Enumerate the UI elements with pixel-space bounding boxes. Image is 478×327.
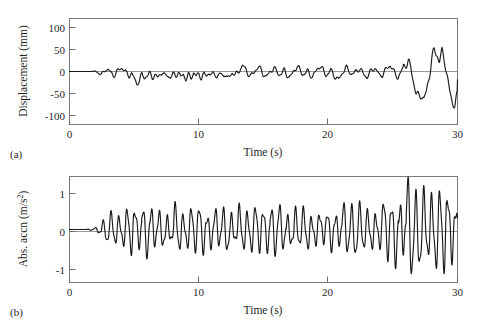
y-tick-label-a-4: -100 (45, 110, 66, 122)
y-axis-title-a: Displacement (mm) (17, 25, 30, 117)
panel-tag-a: (a) (10, 148, 23, 161)
y-axis-title-b: Abs. accn (m/s2) (16, 191, 30, 268)
x-tick-label-b-0: 0 (67, 286, 73, 298)
x-ticks-b (70, 277, 458, 283)
plot-frame-b (70, 177, 458, 283)
panel-b-acceleration: 1 0 -1 0 10 20 30 Time (s) Abs. accn (m/… (0, 163, 478, 327)
y-tick-label-a-0: 100 (49, 22, 66, 34)
x-axis-title-b: Time (s) (244, 304, 283, 317)
panel-tag-b: (b) (10, 306, 23, 319)
y-tick-label-b-2: -1 (56, 264, 65, 276)
x-tick-label-a-1: 10 (193, 128, 205, 140)
panel-a-displacement: 100 50 0 -50 -100 0 10 20 30 Time (s) Di… (0, 0, 478, 164)
y-tick-label-a-1: 50 (54, 44, 66, 56)
y-ticks-b (70, 194, 76, 270)
y-tick-label-a-3: -50 (50, 88, 65, 100)
acceleration-chart: 1 0 -1 0 10 20 30 Time (s) Abs. accn (m/… (0, 163, 478, 327)
x-tick-label-b-3: 30 (452, 286, 464, 298)
x-ticks-a (70, 119, 458, 125)
x-axis-title-a: Time (s) (244, 146, 283, 159)
x-tick-label-a-3: 30 (452, 128, 464, 140)
y-tick-label-b-0: 1 (60, 188, 66, 200)
x-tick-label-a-2: 20 (322, 128, 334, 140)
y-tick-label-b-1: 0 (60, 226, 66, 238)
x-tick-label-b-2: 20 (322, 286, 334, 298)
y-axis-title-b-main: Abs. accn (m/s (17, 198, 30, 267)
x-tick-label-b-1: 10 (193, 286, 205, 298)
displacement-trace (70, 47, 458, 108)
y-tick-label-a-2: 0 (60, 66, 66, 78)
figure-container: 100 50 0 -50 -100 0 10 20 30 Time (s) Di… (0, 0, 478, 327)
svg-text:Abs. accn (m/s2): Abs. accn (m/s2) (16, 191, 30, 268)
acceleration-trace (70, 177, 458, 274)
x-tick-label-a-0: 0 (67, 128, 73, 140)
displacement-chart: 100 50 0 -50 -100 0 10 20 30 Time (s) Di… (0, 0, 478, 164)
